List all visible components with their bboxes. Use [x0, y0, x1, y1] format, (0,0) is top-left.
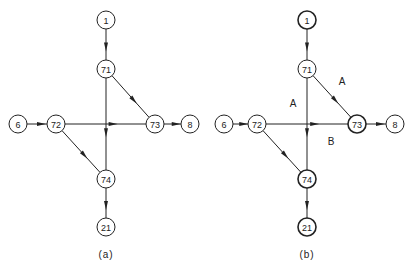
- panel-caption: (b): [299, 249, 314, 260]
- node-72: 72: [248, 115, 266, 133]
- edge-73-to-8: [164, 122, 181, 126]
- node-label: 72: [252, 120, 262, 130]
- arrowhead-icon: [37, 122, 46, 126]
- node-73: 73: [146, 115, 164, 133]
- node-label: 8: [187, 120, 192, 130]
- node-label: 6: [221, 120, 226, 130]
- arrowhead-icon: [305, 201, 309, 210]
- node-6: 6: [215, 115, 233, 133]
- node-label: 73: [352, 120, 362, 130]
- edge-74-to-21: [104, 188, 108, 218]
- arrowhead-icon: [305, 128, 309, 137]
- edge-72-to-74: [62, 131, 100, 173]
- edge-6-to-72: [233, 122, 248, 126]
- edge-1-to-71: [305, 29, 309, 60]
- edge-1-to-71: [104, 29, 108, 60]
- node-label: 73: [150, 120, 160, 130]
- node-label: 71: [101, 65, 111, 75]
- node-72: 72: [47, 115, 65, 133]
- node-label: 21: [302, 223, 312, 233]
- edge-label-a: A: [290, 98, 297, 109]
- node-label: 1: [103, 16, 108, 26]
- node-6: 6: [9, 115, 27, 133]
- node-label: 71: [302, 65, 312, 75]
- edge-74-to-21: [305, 188, 309, 218]
- node-74: 74: [298, 170, 316, 188]
- node-21: 21: [97, 218, 115, 236]
- panel-caption: (a): [98, 249, 113, 260]
- node-label: 72: [51, 120, 61, 130]
- arrowhead-icon: [172, 122, 181, 126]
- node-74: 74: [97, 170, 115, 188]
- node-label: 6: [15, 120, 20, 130]
- node-label: 8: [392, 120, 397, 130]
- edge-71-to-73: [112, 76, 149, 118]
- node-label: 74: [302, 175, 312, 185]
- arrowhead-icon: [376, 122, 385, 126]
- arrowhead-icon: [239, 122, 248, 126]
- node-71: 71: [97, 60, 115, 78]
- arrowhead-icon: [104, 43, 108, 52]
- arrowhead-icon: [109, 122, 118, 126]
- node-label: 21: [101, 223, 111, 233]
- network-diagram: 17167273874211716727387421 (a)AAB(b): [0, 0, 410, 273]
- node-21: 21: [298, 218, 316, 236]
- node-71: 71: [298, 60, 316, 78]
- node-73: 73: [348, 115, 366, 133]
- node-8: 8: [181, 115, 199, 133]
- arrowhead-icon: [305, 43, 309, 52]
- edge-label-b: B: [328, 136, 335, 147]
- arrowhead-icon: [104, 201, 108, 210]
- node-1: 1: [97, 11, 115, 29]
- edge-72-to-74: [263, 131, 301, 173]
- edge-73-to-8: [366, 122, 386, 126]
- edge-label-a: A: [339, 76, 346, 87]
- node-label: 74: [101, 175, 111, 185]
- edge-6-to-72: [27, 122, 47, 126]
- node-8: 8: [386, 115, 404, 133]
- node-label: 1: [304, 16, 309, 26]
- arrowhead-icon: [104, 128, 108, 137]
- node-1: 1: [298, 11, 316, 29]
- arrowhead-icon: [310, 122, 319, 126]
